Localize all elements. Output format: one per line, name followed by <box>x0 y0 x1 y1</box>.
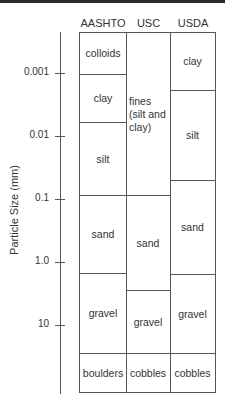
cell-cobbles: cobbles <box>170 353 215 392</box>
cell-gravel: gravel <box>80 273 126 353</box>
y-axis-line <box>60 32 61 394</box>
top-border <box>0 0 225 3</box>
cell-sand: sand <box>170 180 215 274</box>
cell-gravel: gravel <box>170 274 215 353</box>
column-usda: clay silt sand gravel cobbles <box>170 32 216 393</box>
tick-mark <box>55 73 65 74</box>
cell-clay: clay <box>80 74 126 122</box>
tick-mark <box>55 136 65 137</box>
cell-colloids: colloids <box>80 33 126 74</box>
tick-label: 10 <box>38 318 49 329</box>
column-usc: fines (silt and clay) sand gravel cobble… <box>126 32 171 393</box>
tick-label: 0.1 <box>35 192 49 203</box>
cell-silt: silt <box>80 122 126 195</box>
cell-fines: fines (silt and clay) <box>126 33 170 195</box>
cell-sand: sand <box>80 195 126 273</box>
cell-gravel: gravel <box>126 290 170 353</box>
tick-label: 0.01 <box>30 129 49 140</box>
y-axis-label: Particle Size (mm) <box>8 165 20 255</box>
cell-boulders: boulders <box>80 353 126 392</box>
cell-cobbles: cobbles <box>126 353 170 392</box>
tick-label: 0.001 <box>24 66 49 77</box>
column-header-usc: USC <box>126 17 171 29</box>
column-aashto: colloids clay silt sand gravel boulders <box>79 32 127 393</box>
tick-mark <box>55 325 65 326</box>
cell-silt: silt <box>170 90 215 180</box>
column-header-usda: USDA <box>170 17 216 29</box>
column-header-aashto: AASHTO <box>79 17 127 29</box>
cell-sand: sand <box>126 195 170 290</box>
cell-clay: clay <box>170 33 215 90</box>
tick-label: 1.0 <box>35 255 49 266</box>
tick-mark <box>55 262 65 263</box>
tick-mark <box>55 199 65 200</box>
